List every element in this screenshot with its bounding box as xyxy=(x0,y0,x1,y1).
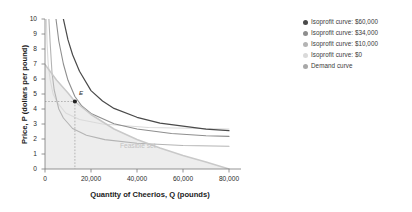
x-axis-ticks xyxy=(45,169,229,173)
legend-item-label: Isoprofit curve: $10,000 xyxy=(311,39,378,49)
legend-item-label: Isoprofit curve: $34,000 xyxy=(311,28,378,38)
feasible-set-label: Feasible set xyxy=(120,142,156,149)
x-tick-label-60000: 60,000 xyxy=(163,175,203,182)
legend-marker-icon xyxy=(303,20,308,25)
point-e-label: E xyxy=(79,89,83,96)
legend-item-label: Isoprofit curve: $60,000 xyxy=(311,17,378,27)
legend-marker-icon xyxy=(303,31,308,36)
legend-item-isoprofit-34000[interactable]: Isoprofit curve: $34,000 xyxy=(303,28,411,38)
legend-item-demand-curve[interactable]: Demand curve xyxy=(303,61,411,71)
x-axis-title: Quantity of Cheerios, Q (pounds) xyxy=(0,190,300,199)
legend-marker-icon xyxy=(303,64,308,69)
legend-item-isoprofit-10000[interactable]: Isoprofit curve: $10,000 xyxy=(303,39,411,49)
point-e-marker xyxy=(73,99,77,103)
legend-marker-icon xyxy=(303,42,308,47)
y-axis-ticks xyxy=(42,19,46,169)
chart-figure: 10 9 8 7 6 5 4 3 2 1 0 0 20,000 40,000 6… xyxy=(0,0,412,212)
legend-marker-icon xyxy=(303,53,308,58)
chart-legend: Isoprofit curve: $60,000 Isoprofit curve… xyxy=(303,17,411,71)
y-axis-title: Price, P (dollars per pound) xyxy=(20,15,29,175)
x-tick-label-40000: 40,000 xyxy=(117,175,157,182)
legend-item-isoprofit-0[interactable]: Isoprofit curve: $0 xyxy=(303,50,411,60)
x-tick-label-0: 0 xyxy=(25,175,65,182)
legend-item-label: Isoprofit curve: $0 xyxy=(311,50,362,60)
legend-item-isoprofit-60000[interactable]: Isoprofit curve: $60,000 xyxy=(303,17,411,27)
x-tick-label-80000: 80,000 xyxy=(209,175,249,182)
legend-item-label: Demand curve xyxy=(311,61,353,71)
x-tick-label-20000: 20,000 xyxy=(71,175,111,182)
